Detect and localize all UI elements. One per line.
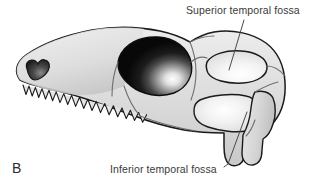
skull-diagram xyxy=(0,0,313,185)
skull-figure-panel: Superior temporal fossa Inferior tempora… xyxy=(0,0,313,185)
inferior-temporal-fossa-label: Inferior temporal fossa xyxy=(110,163,217,175)
superior-temporal-fossa-opening xyxy=(206,51,267,83)
superior-temporal-fossa-label: Superior temporal fossa xyxy=(186,4,300,16)
panel-letter-label: B xyxy=(12,160,21,176)
